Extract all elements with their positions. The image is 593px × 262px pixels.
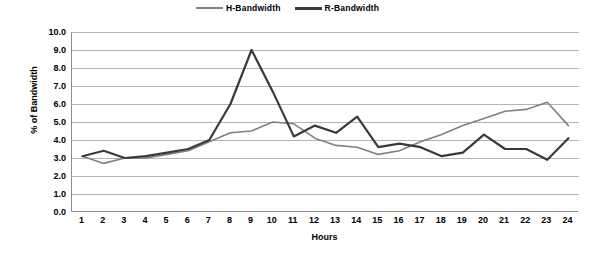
x-tick-label: 6 xyxy=(185,216,190,225)
legend-line-swatch-h-bandwidth xyxy=(196,7,223,9)
x-tick-label: 15 xyxy=(372,216,382,225)
y-tick-label: 9.0 xyxy=(53,46,66,55)
x-tick-label: 12 xyxy=(309,216,319,225)
y-tick-label: 0.0 xyxy=(53,208,66,217)
chart-legend: H-Bandwidth R-Bandwidth xyxy=(196,4,379,13)
x-tick-label: 11 xyxy=(288,216,298,225)
x-tick-label: 20 xyxy=(478,216,488,225)
legend-line-swatch-r-bandwidth xyxy=(295,7,322,10)
x-tick-label: 13 xyxy=(330,216,340,225)
x-tick-label: 17 xyxy=(415,216,425,225)
x-axis-title: Hours xyxy=(71,232,578,242)
legend-label-h-bandwidth: H-Bandwidth xyxy=(226,4,281,13)
y-tick-label: 2.0 xyxy=(53,172,66,181)
y-tick-label: 6.0 xyxy=(53,100,66,109)
x-tick-label: 21 xyxy=(499,216,509,225)
x-tick-label: 9 xyxy=(248,216,253,225)
x-tick-label: 16 xyxy=(393,216,403,225)
x-tick-label: 14 xyxy=(351,216,361,225)
x-tick-label: 22 xyxy=(520,216,530,225)
bandwidth-line-chart: H-Bandwidth R-Bandwidth % of Bandwidth 0… xyxy=(0,0,593,262)
x-tick-label: 3 xyxy=(121,216,126,225)
y-tick-label: 10.0 xyxy=(48,28,66,37)
x-tick-label: 24 xyxy=(562,216,572,225)
x-tick-label: 8 xyxy=(227,216,232,225)
legend-item-h-bandwidth[interactable]: H-Bandwidth xyxy=(196,4,281,13)
plot-area xyxy=(71,32,578,212)
y-axis-tick-labels: 0.01.02.03.04.05.06.07.08.09.010.0 xyxy=(36,32,66,212)
x-tick-label: 2 xyxy=(100,216,105,225)
x-tick-label: 7 xyxy=(206,216,211,225)
y-tick-label: 4.0 xyxy=(53,136,66,145)
x-tick-label: 18 xyxy=(436,216,446,225)
x-tick-label: 19 xyxy=(457,216,467,225)
x-tick-label: 23 xyxy=(541,216,551,225)
x-tick-label: 10 xyxy=(267,216,277,225)
y-tick-label: 1.0 xyxy=(53,190,66,199)
y-tick-label: 7.0 xyxy=(53,82,66,91)
y-tick-label: 8.0 xyxy=(53,64,66,73)
x-tick-label: 4 xyxy=(142,216,147,225)
x-axis-tick-labels: 123456789101112131415161718192021222324 xyxy=(71,216,578,230)
legend-item-r-bandwidth[interactable]: R-Bandwidth xyxy=(295,4,380,13)
plot-canvas xyxy=(72,32,579,212)
legend-label-r-bandwidth: R-Bandwidth xyxy=(325,4,380,13)
series-line-r-bandwidth xyxy=(83,50,569,160)
x-tick-label: 1 xyxy=(79,216,84,225)
y-tick-label: 5.0 xyxy=(53,118,66,127)
x-tick-label: 5 xyxy=(164,216,169,225)
y-tick-label: 3.0 xyxy=(53,154,66,163)
